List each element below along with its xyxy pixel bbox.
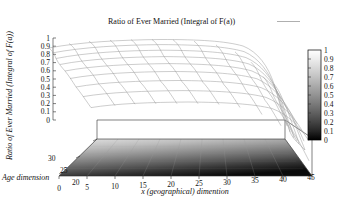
z-axis-tick-labels: 1 0.9 0.8 0.7 0.6 0.5 0.4 0.3 0.2 0.1 0 [41, 34, 51, 125]
y-tick-label: 25 [60, 166, 68, 175]
z-axis-ticks [53, 38, 56, 120]
colorbar-tick-labels: 1 0.9 0.8 0.7 0.6 0.5 0.4 0.3 0.2 0.1 0 [324, 46, 334, 145]
back-plane-edge [97, 120, 312, 138]
x-axis-ticks [59, 176, 312, 179]
z-tick-label: 0 [46, 116, 50, 125]
colorbar-tick-label: 0.2 [324, 118, 334, 127]
z-axis-title: Ratio of Ever Married (Integral of F(a)) [5, 31, 14, 161]
x-axis-title: x (geographical) dimention [140, 187, 229, 196]
colorbar-tick-label: 1 [324, 46, 328, 55]
colorbar-tick-label: 0.8 [324, 64, 334, 73]
colorbar: 1 0.9 0.8 0.7 0.6 0.5 0.4 0.3 0.2 0.1 0 [308, 46, 334, 145]
chart-title: Ratio of Ever Married (Integral of F(a)) [108, 17, 235, 26]
y-tick-label: 30 [48, 154, 56, 163]
x-tick-label: 35 [251, 176, 259, 185]
colorbar-tick-label: 0.6 [324, 82, 334, 91]
colorbar-tick-label: 0.1 [324, 127, 334, 136]
y-tick-label: 20 [72, 178, 80, 187]
plot-canvas: Ratio of Ever Married (Integral of F(a)) [0, 0, 349, 203]
colorbar-tick-label: 0.7 [324, 73, 334, 82]
x-tick-label: 5 [85, 183, 89, 192]
colorbar-tick-label: 0.9 [324, 55, 334, 64]
x-tick-label: 30 [223, 178, 231, 187]
x-tick-label: 0 [57, 184, 61, 193]
colorbar-tick-label: 0.3 [324, 109, 334, 118]
x-tick-label: 45 [307, 173, 315, 182]
colorbar-tick-label: 0.4 [324, 100, 334, 109]
colorbar-tick-label: 0.5 [324, 91, 334, 100]
x-tick-label: 10 [111, 182, 119, 191]
y-axis-title: Age dimension [1, 173, 49, 182]
x-tick-label: 40 [279, 175, 287, 184]
surface-plot-figure: Ratio of Ever Married (Integral of F(a)) [0, 0, 349, 203]
colorbar-tick-label: 0 [324, 136, 328, 145]
